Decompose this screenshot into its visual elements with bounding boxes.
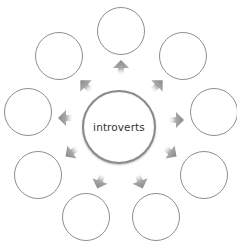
arrow-icon-bottom-right: [131, 172, 149, 190]
arrow-icon-lower-right: [161, 143, 179, 161]
satellite-node-upper-left: [35, 32, 83, 80]
satellite-node-bottom-right: [132, 193, 180, 241]
center-node: introverts: [82, 90, 156, 164]
satellite-node-left: [4, 88, 52, 136]
satellite-node-lower-right: [180, 151, 228, 199]
satellite-node-right: [190, 88, 237, 136]
arrow-icon-upper-left: [77, 77, 95, 95]
radial-diagram: introverts: [0, 0, 237, 241]
arrow-icon-left: [57, 109, 75, 127]
satellite-node-top: [97, 7, 145, 55]
arrow-icon-top: [112, 59, 130, 77]
arrow-icon-right: [167, 111, 185, 129]
arrow-icon-lower-left: [63, 143, 81, 161]
arrow-icon-upper-right: [148, 77, 166, 95]
arrow-icon-bottom-left: [91, 172, 109, 190]
center-label: introverts: [93, 121, 145, 133]
satellite-node-upper-right: [159, 32, 207, 80]
satellite-node-lower-left: [14, 151, 62, 199]
satellite-node-bottom-left: [62, 193, 110, 241]
